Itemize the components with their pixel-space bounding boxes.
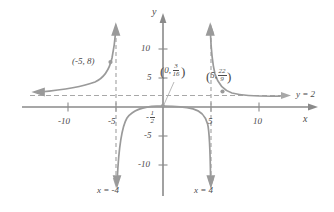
x-tick-label-neg10: -10: [58, 117, 70, 126]
x-tick-label-neg5: -5: [108, 117, 116, 126]
x-axis-label: x: [303, 114, 307, 124]
point-label-right: ( 5, 22 9 ): [206, 68, 231, 83]
right-point-open-paren: (: [206, 70, 210, 83]
right-point-x-value: 5,: [210, 71, 217, 80]
right-point-denominator: 9: [219, 76, 225, 83]
right-point-fraction: 22 9: [218, 68, 227, 83]
point-label-left: (-5, 8): [72, 57, 95, 66]
x-tick-label-10: 10: [253, 117, 262, 126]
curve-right-branch: [207, 25, 280, 96]
y-tick-label-neg-one-half: - 1 2: [146, 110, 156, 125]
leader-line-y-intercept: [164, 82, 174, 105]
marker-left-point: [108, 60, 112, 64]
right-point-close-paren: ): [227, 70, 231, 83]
neg-one-half-fraction: 1 2: [150, 110, 156, 125]
marker-right-point: [220, 89, 224, 93]
y-intercept-close-paren: ): [181, 65, 185, 78]
asymptote-label-x-neg4: x = -4: [97, 186, 119, 195]
asymptote-label-x-4: x = 4: [194, 186, 213, 195]
y-intercept-fraction: 3 16: [172, 63, 181, 78]
coordinate-plot: [0, 0, 334, 212]
y-intercept-denominator: 16: [172, 71, 181, 78]
y-tick-label-neg10: -10: [138, 160, 150, 169]
curve-middle-branch: [114, 106, 214, 186]
y-tick-label-neg5: -5: [144, 131, 152, 140]
y-tick-label-5: 5: [147, 73, 152, 82]
y-tick-label-10: 10: [141, 44, 150, 53]
graph-figure: -10 -5 5 10 10 5 -5 -10 - 1 2 x y (-5, 8…: [0, 0, 334, 212]
y-axis-label: y: [152, 7, 156, 17]
asymptote-label-y-2: y = 2: [296, 90, 315, 99]
x-tick-label-5: 5: [208, 117, 213, 126]
point-label-y-intercept: ( 0, 3 16 ): [160, 63, 185, 78]
y-intercept-open-paren: (: [160, 65, 164, 78]
neg-one-half-denominator: 2: [150, 118, 156, 125]
y-intercept-x-value: 0,: [164, 66, 171, 75]
